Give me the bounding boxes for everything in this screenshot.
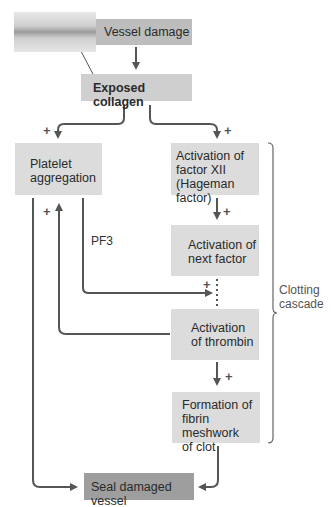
- vessel-image: [14, 12, 96, 52]
- exposed-collagen-label: Exposed collagen: [93, 81, 145, 109]
- next-factor-box: Activation of next factor: [171, 225, 259, 276]
- plus-sign: +: [43, 205, 51, 218]
- seal-damaged-vessel-box: Seal damaged vessel: [84, 473, 194, 500]
- plus-sign: +: [43, 124, 51, 137]
- vessel-damage-label: Vessel damage: [104, 25, 189, 39]
- fibrin-box: Formation of fibrin meshwork of clot: [172, 392, 260, 443]
- plus-sign: +: [203, 278, 211, 291]
- clotting-cascade-label: Clotting cascade: [279, 283, 324, 311]
- plus-sign: +: [223, 205, 231, 218]
- vessel-damage-box: Vessel damage: [96, 19, 192, 45]
- plus-sign: +: [225, 370, 233, 383]
- pf3-label: PF3: [91, 234, 113, 248]
- factor-xii-box: Activation of factor XII (Hageman factor…: [171, 143, 259, 195]
- platelet-aggregation-box: Platelet aggregation: [15, 143, 102, 195]
- plus-sign: +: [224, 124, 232, 137]
- thrombin-box: Activation of thrombin: [171, 309, 259, 360]
- exposed-collagen-box: Exposed collagen: [81, 74, 192, 101]
